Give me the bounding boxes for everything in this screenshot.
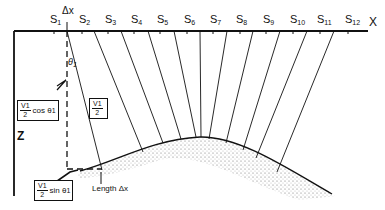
velocity-box: V12 xyxy=(89,98,108,119)
fraction: V12 xyxy=(20,102,31,119)
station-s1: S1 xyxy=(50,14,61,28)
z-axis-label: Z xyxy=(17,131,24,142)
length-label: Length Δx xyxy=(92,183,128,194)
delta-x-label: Δx xyxy=(62,5,74,16)
station-s2: S2 xyxy=(79,14,90,28)
station-s6: S6 xyxy=(184,14,195,28)
station-s11: S11 xyxy=(317,14,332,28)
fraction: V12 xyxy=(37,182,48,199)
station-s7: S7 xyxy=(210,14,221,28)
station-s5: S5 xyxy=(157,14,168,28)
station-s9: S9 xyxy=(263,14,274,28)
station-s4: S4 xyxy=(131,14,142,28)
sin-term-box: V12 sin θ1 xyxy=(34,180,73,201)
sin-text: sin θ xyxy=(50,186,67,195)
fraction: V12 xyxy=(92,100,103,117)
station-s8: S8 xyxy=(236,14,247,28)
cos-text: cos θ xyxy=(33,106,52,115)
cos-term-box: V12 cos θ1 xyxy=(17,100,59,121)
station-s3: S3 xyxy=(105,14,116,28)
station-s10: S10 xyxy=(290,14,305,28)
x-axis-label: X xyxy=(369,17,377,28)
theta-label: θ1 xyxy=(68,57,77,70)
cos-leader xyxy=(57,80,66,90)
station-s12: S12 xyxy=(345,14,360,28)
